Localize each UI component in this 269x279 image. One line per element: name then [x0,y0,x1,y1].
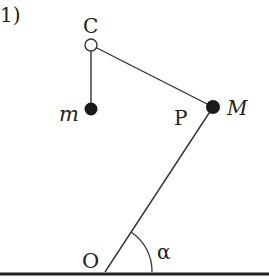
mass-M-point [206,100,220,114]
label-P: P [174,106,187,130]
label-alpha: α [157,240,171,264]
figure-number: 1) [0,3,21,27]
label-C: C [83,14,98,38]
label-O: O [82,249,99,273]
mechanism-diagram: 1) C m P M O α [0,0,269,279]
string-CM [91,45,213,107]
angle-arc [131,232,152,272]
pulley-C [85,39,97,51]
mass-m-point [85,103,98,116]
label-m: m [59,102,79,126]
label-M: M [226,96,248,120]
